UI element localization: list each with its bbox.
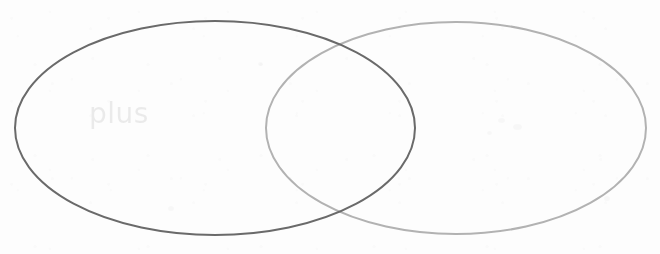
venn-set-label-plus: plus: [89, 99, 149, 129]
venn-diagram-canvas: plus: [0, 0, 660, 254]
venn-circle-left[interactable]: [15, 21, 415, 235]
venn-circle-right[interactable]: [266, 22, 646, 234]
